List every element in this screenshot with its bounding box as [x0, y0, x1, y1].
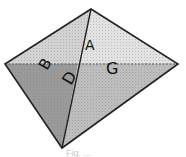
- label-g: G: [106, 59, 118, 78]
- figure-caption: Fig. ...: [66, 148, 91, 157]
- pyramid-diagram: A B G D: [0, 0, 186, 157]
- label-a: A: [85, 37, 95, 53]
